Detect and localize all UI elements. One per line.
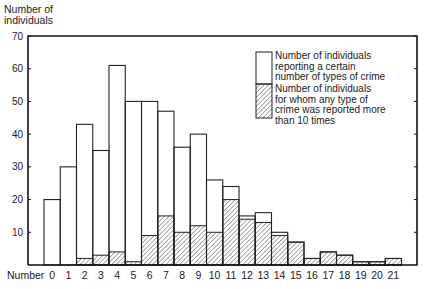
x-tick-label: 7 [163,269,169,281]
legend-swatches [256,52,272,118]
bar-hatched-3 [93,255,109,265]
x-tick-label: 20 [371,269,383,281]
y-tick-label: 70 [12,31,24,42]
bar-hatched-21 [385,258,401,265]
x-tick-label: 11 [225,269,236,281]
x-tick-label: 12 [241,269,253,281]
bar-open-4 [109,65,125,265]
legend-text-line: Number of individuals [275,51,385,62]
x-tick-label: 6 [147,269,153,281]
legend-item-hatched: Number of individualsfor whom any type o… [275,84,386,126]
legend-text-line: Number of individuals [275,84,386,95]
y-tick-label: 30 [12,161,24,172]
bar-hatched-14 [272,236,288,265]
y-tick-label: 60 [12,63,24,74]
bar-hatched-6 [142,236,158,265]
y-tick-label: 20 [12,194,24,205]
legend-swatch-open [256,52,272,84]
x-tick-label: 15 [290,269,302,281]
legend-item-open: Number of individualsreporting a certain… [275,51,385,83]
bar-hatched-15 [288,242,304,265]
bar-hatched-7 [158,216,174,265]
x-tick-label: 10 [209,269,221,281]
bar-hatched-12 [239,219,255,265]
bar-hatched-8 [174,232,190,265]
x-axis-title: Number [7,269,45,281]
bar-hatched-9 [190,226,206,265]
x-tick-label: 5 [130,269,136,281]
bar-open-0 [44,200,60,265]
legend-text-line: than 10 times [275,116,386,127]
x-tick-label: 19 [355,269,367,281]
histogram-chart: 0123456789101112131415161718192021102030… [0,0,426,289]
x-tick-label: 17 [323,269,335,281]
bar-hatched-16 [304,258,320,265]
bar-hatched-17 [320,252,336,265]
x-tick-label: 18 [339,269,351,281]
legend-swatch-hatched [256,84,272,118]
bar-open-1 [60,167,76,265]
x-tick-label: 3 [98,269,104,281]
bar-hatched-13 [255,222,271,265]
x-tick-label: 2 [82,269,88,281]
x-tick-label: 21 [388,269,400,281]
y-tick-label: 50 [12,96,24,107]
x-tick-label: 4 [114,269,120,281]
y-tick-label: 10 [12,227,24,238]
x-tick-label: 1 [65,269,71,281]
x-tick-label: 0 [49,269,55,281]
bar-hatched-11 [223,200,239,265]
x-tick-label: 9 [195,269,201,281]
x-tick-label: 8 [179,269,185,281]
bar-open-3 [93,151,109,266]
x-tick-label: 16 [306,269,318,281]
bar-hatched-18 [337,255,353,265]
bar-open-5 [125,101,141,265]
legend-text-line: number of types of crime [275,72,385,83]
bar-hatched-10 [207,232,223,265]
bar-hatched-4 [109,252,125,265]
x-tick-label: 14 [274,269,286,281]
y-tick-label: 40 [12,129,24,140]
bar-open-2 [77,124,93,265]
bar-hatched-2 [77,258,93,265]
x-tick-label: 13 [258,269,270,281]
